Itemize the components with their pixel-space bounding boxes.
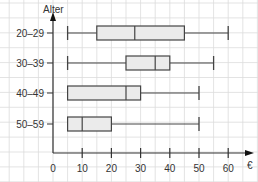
y-category-label: 20–29	[16, 28, 44, 39]
x-axis-label: €	[247, 160, 253, 171]
boxes	[68, 26, 229, 131]
x-tick-label: 40	[164, 163, 176, 174]
y-category-label: 30–39	[16, 58, 44, 69]
x-tick-label: 30	[135, 163, 147, 174]
box-20–29	[68, 26, 229, 40]
x-axis-arrow-icon	[245, 150, 254, 156]
box-50–59	[68, 117, 199, 131]
x-tick-label: 10	[77, 163, 89, 174]
y-categories: 20–2930–3940–4950–59	[16, 28, 53, 130]
y-axis-label: Alter	[43, 4, 64, 15]
x-tick-label: 0	[50, 163, 56, 174]
x-tick-label: 50	[193, 163, 205, 174]
iqr-box	[68, 117, 112, 131]
box-40–49	[68, 86, 199, 100]
iqr-box	[126, 56, 170, 70]
y-category-label: 40–49	[16, 88, 44, 99]
box-plot-chart: Alter € 0102030405060 20–2930–3940–4950–…	[0, 0, 258, 182]
x-tick-label: 20	[106, 163, 118, 174]
x-tick-label: 60	[223, 163, 235, 174]
y-category-label: 50–59	[16, 119, 44, 130]
box-30–39	[68, 56, 214, 70]
iqr-box	[68, 86, 141, 100]
iqr-box	[97, 26, 185, 40]
